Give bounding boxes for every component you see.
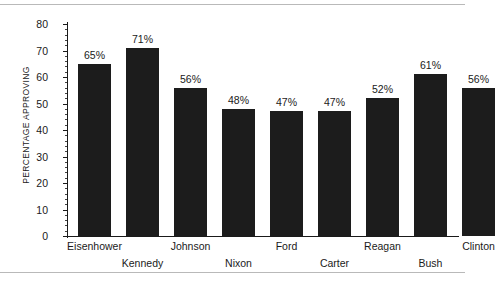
- bar-group: 56%: [174, 24, 207, 236]
- bar-group: 61%: [414, 24, 447, 236]
- x-axis-category-labels: EisenhowerKennedyJohnsonNixonFordCarterR…: [68, 238, 465, 272]
- y-axis-tick-label: 50: [36, 99, 48, 110]
- bar-value-label: 47%: [276, 97, 297, 108]
- bar[interactable]: [318, 111, 351, 236]
- bar-group: 48%: [222, 24, 255, 236]
- bar-value-label: 48%: [228, 95, 249, 106]
- bar[interactable]: [222, 109, 255, 236]
- bar[interactable]: [126, 48, 159, 236]
- bar[interactable]: [414, 74, 447, 236]
- x-axis-category-label: Ford: [276, 241, 298, 252]
- y-axis-tick-label: 30: [36, 152, 48, 163]
- bar-value-label: 56%: [180, 74, 201, 85]
- bar-group: 56%: [462, 24, 495, 236]
- y-axis-tick-label: 80: [36, 19, 48, 30]
- x-axis-category-label: Johnson: [171, 241, 211, 252]
- bar-group: 52%: [366, 24, 399, 236]
- bar[interactable]: [174, 88, 207, 236]
- x-axis-category-label: Clinton: [462, 241, 495, 252]
- y-axis-tick-label: 10: [36, 205, 48, 216]
- y-axis-tick-labels: 01020304050607080: [0, 4, 60, 272]
- bar-value-label: 65%: [84, 50, 105, 61]
- bar[interactable]: [270, 111, 303, 236]
- y-axis-tick-label: 0: [42, 231, 48, 242]
- x-axis-category-label: Eisenhower: [67, 241, 122, 252]
- bar[interactable]: [78, 64, 111, 236]
- bar-chart: PERCENTAGE APPROVING 01020304050607080 6…: [0, 4, 465, 272]
- y-axis-tick-label: 20: [36, 178, 48, 189]
- bar[interactable]: [462, 88, 495, 236]
- bar[interactable]: [366, 98, 399, 236]
- x-axis-category-label: Bush: [419, 258, 443, 269]
- bar-value-label: 61%: [420, 60, 441, 71]
- bar-value-label: 47%: [324, 97, 345, 108]
- y-axis-tick-label: 60: [36, 72, 48, 83]
- y-axis-tick-label: 40: [36, 125, 48, 136]
- x-axis-category-label: Carter: [320, 258, 349, 269]
- y-axis-tick-label: 70: [36, 46, 48, 57]
- bar-group: 47%: [270, 24, 303, 236]
- x-axis-category-label: Nixon: [225, 258, 252, 269]
- bar-value-label: 52%: [372, 84, 393, 95]
- frame-bottom-rule: [0, 272, 465, 273]
- bar-series: 65%71%56%48%47%47%52%61%56%: [68, 24, 465, 236]
- bar-value-label: 71%: [132, 34, 153, 45]
- x-axis-category-label: Kennedy: [122, 258, 163, 269]
- x-axis-category-label: Reagan: [364, 241, 401, 252]
- bar-group: 71%: [126, 24, 159, 236]
- bar-group: 65%: [78, 24, 111, 236]
- bar-group: 47%: [318, 24, 351, 236]
- bar-value-label: 56%: [468, 74, 489, 85]
